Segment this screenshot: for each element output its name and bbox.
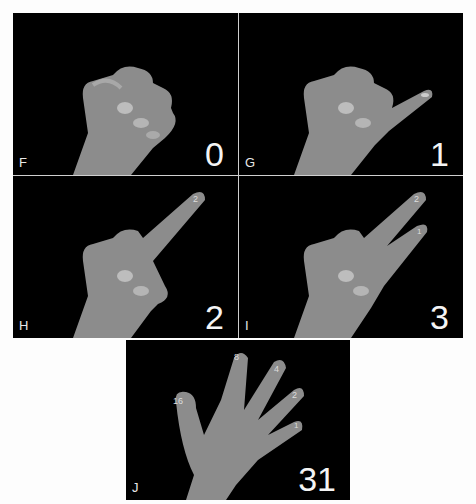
panel-value: 3 [430, 300, 449, 338]
finger-label: 1 [417, 227, 422, 236]
finger-label: 2 [414, 194, 419, 204]
panel-value: 2 [205, 300, 224, 338]
panel-value: 0 [205, 137, 224, 175]
panel-f: F 0 [13, 13, 238, 175]
panel-letter: H [19, 318, 28, 333]
panel-letter: J [132, 480, 139, 495]
panel-h: 2 H 2 [13, 176, 238, 338]
panel-value: 31 [298, 462, 336, 500]
panel-letter: I [245, 318, 249, 333]
finger-label: 2 [292, 390, 297, 400]
finger-label: 2 [193, 194, 198, 204]
panel-letter: F [19, 155, 27, 170]
panel-j: 16 8 4 2 1 J 31 [126, 340, 350, 500]
panel-i: 2 1 I 3 [239, 176, 463, 338]
panel-g: G 1 [239, 13, 463, 175]
finger-label: 16 [173, 396, 183, 406]
finger-label: 1 [294, 421, 299, 430]
panel-value: 1 [430, 137, 449, 175]
finger-label: 4 [274, 364, 279, 374]
panel-letter: G [245, 155, 255, 170]
finger-label: 8 [234, 352, 239, 362]
